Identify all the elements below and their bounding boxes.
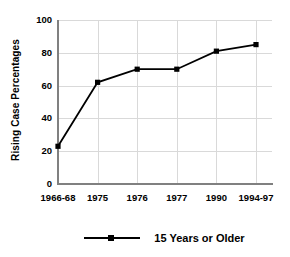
- data-point-marker: [55, 144, 60, 149]
- legend-label: 15 Years or Older: [154, 232, 244, 244]
- data-point-marker: [95, 80, 100, 85]
- legend-marker-icon: [108, 235, 114, 241]
- data-point-marker: [135, 67, 140, 72]
- legend-entry-15-years-or-older: 15 Years or Older: [84, 232, 244, 244]
- legend: 15 Years or Older: [57, 228, 272, 248]
- data-point-marker: [174, 67, 179, 72]
- series-layer: [0, 0, 290, 257]
- legend-swatch-icon: [84, 233, 140, 243]
- line-chart: Rising Case Percentages 020406080100 196…: [0, 0, 290, 257]
- data-point-marker: [214, 49, 219, 54]
- series-line: [58, 45, 256, 147]
- data-point-marker: [253, 42, 258, 47]
